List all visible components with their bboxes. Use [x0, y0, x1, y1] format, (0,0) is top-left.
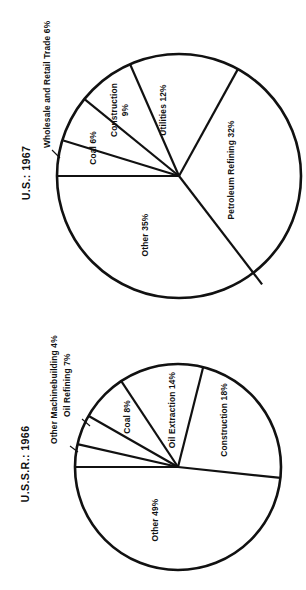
ussr-label-oil-refining: Oil Refining 7% — [62, 353, 72, 417]
ussr-1966-pie-chart: U.S.S.R.: 1966 Other Machinebuilding 4% … — [0, 0, 306, 590]
ussr-chart-title: U.S.S.R.: 1966 — [19, 426, 31, 503]
ussr-label-other-machinebuilding: Other Machinebuilding 4% — [49, 335, 59, 444]
ussr-label-coal: Coal 8% — [122, 400, 132, 434]
ussr-label-oil-extraction: Oil Extraction 14% — [167, 371, 177, 448]
pie-chart-figure: U.S.: 1967 Wholesale and Retail Trade 6%… — [0, 0, 306, 590]
ussr-label-other: Other 49% — [150, 498, 160, 541]
ussr-label-construction: Construction 18% — [219, 383, 229, 457]
